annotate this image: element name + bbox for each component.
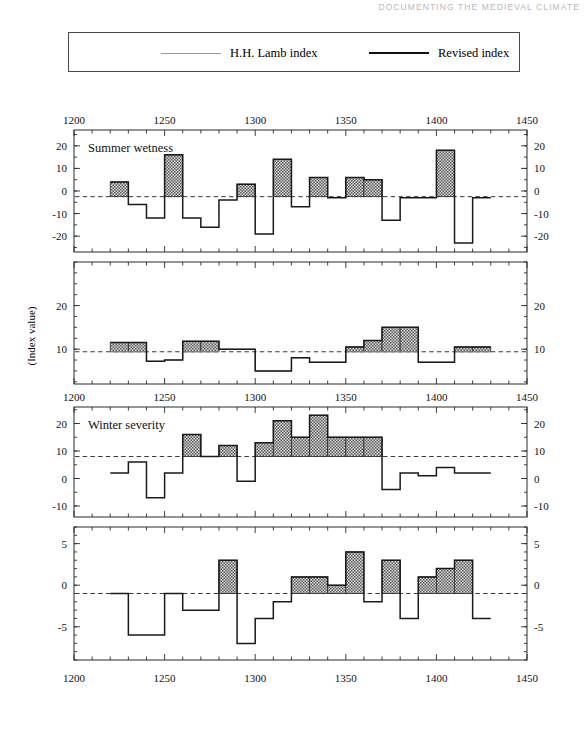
x-tick-label: 1400	[425, 391, 448, 403]
x-tick-label: 1450	[516, 672, 539, 684]
x-tick-label: 1250	[154, 672, 177, 684]
bar	[328, 585, 346, 593]
bar	[455, 560, 473, 593]
bar	[436, 150, 454, 196]
bar	[382, 560, 400, 593]
bar	[128, 343, 146, 352]
bar	[382, 327, 400, 351]
series-revised	[110, 552, 491, 643]
svg-text:0: 0	[534, 185, 540, 197]
x-tick-label: 1250	[154, 114, 177, 126]
x-tick-label: 1350	[335, 391, 358, 403]
x-tick-label: 1350	[335, 672, 358, 684]
bar	[110, 343, 128, 352]
svg-text:20: 20	[534, 140, 546, 152]
bar	[400, 327, 418, 351]
x-tick-label: 1300	[244, 672, 267, 684]
bar	[310, 177, 328, 196]
svg-text:5: 5	[534, 538, 540, 550]
x-tick-label: 1350	[335, 114, 358, 126]
svg-text:0: 0	[534, 473, 540, 485]
bar	[364, 340, 382, 351]
svg-text:10: 10	[56, 445, 68, 457]
svg-text:10: 10	[534, 162, 546, 174]
panel-3: 2020101000-10-10Winter severity	[52, 407, 549, 517]
svg-text:5: 5	[62, 538, 68, 550]
svg-text:20: 20	[56, 418, 68, 430]
x-tick-label: 1200	[63, 114, 86, 126]
x-tick-label: 1400	[425, 114, 448, 126]
svg-text:-20: -20	[534, 230, 549, 242]
bar	[291, 577, 309, 594]
svg-text:20: 20	[56, 140, 68, 152]
chart-canvas: 2020101000-10-10-20-20Summer wetness2020…	[0, 0, 587, 737]
svg-text:-10: -10	[534, 208, 549, 220]
svg-text:-5: -5	[534, 621, 544, 633]
bar	[328, 437, 346, 456]
figure-root: DOCUMENTING THE MEDIEVAL CLIMATE H.H. La…	[0, 0, 587, 737]
bar	[310, 577, 328, 594]
svg-text:-20: -20	[52, 230, 67, 242]
x-tick-label: 1450	[516, 114, 539, 126]
panel-title: Summer wetness	[88, 141, 173, 155]
panel-4: 5500-5-5	[58, 527, 544, 660]
series-revised	[110, 327, 491, 371]
x-tick-label: 1300	[244, 391, 267, 403]
svg-text:10: 10	[56, 162, 68, 174]
bar	[219, 560, 237, 593]
svg-text:20: 20	[534, 418, 546, 430]
bar	[364, 437, 382, 456]
svg-text:20: 20	[534, 300, 546, 312]
x-tick-label: 1400	[425, 672, 448, 684]
svg-text:-10: -10	[52, 500, 67, 512]
svg-text:10: 10	[534, 343, 546, 355]
svg-text:-10: -10	[534, 500, 549, 512]
bar	[237, 184, 255, 196]
bar	[183, 435, 201, 457]
bar	[110, 182, 128, 197]
svg-text:0: 0	[62, 473, 68, 485]
x-tick-label: 1450	[516, 391, 539, 403]
bar	[201, 341, 219, 351]
bar	[346, 437, 364, 456]
panel-1: 2020101000-10-10-20-20Summer wetness	[52, 130, 549, 252]
svg-text:-10: -10	[52, 208, 67, 220]
bar	[273, 421, 291, 457]
bar	[291, 437, 309, 456]
bar	[346, 177, 364, 196]
panel-2: 20201010	[56, 262, 546, 384]
x-tick-label: 1250	[154, 391, 177, 403]
panel-title: Winter severity	[88, 418, 166, 432]
bar	[418, 577, 436, 594]
bar	[219, 446, 237, 457]
x-tick-label: 1200	[63, 672, 86, 684]
x-tick-label: 1300	[244, 114, 267, 126]
bar	[255, 443, 273, 457]
bar	[346, 552, 364, 594]
svg-text:-5: -5	[58, 621, 68, 633]
svg-text:0: 0	[62, 185, 68, 197]
bar	[364, 180, 382, 197]
svg-text:0: 0	[62, 579, 68, 591]
svg-text:20: 20	[56, 300, 68, 312]
bar	[183, 341, 201, 351]
x-tick-label: 1200	[63, 391, 86, 403]
svg-text:10: 10	[56, 343, 68, 355]
svg-text:10: 10	[534, 445, 546, 457]
bar	[436, 569, 454, 594]
bar	[310, 415, 328, 456]
svg-text:0: 0	[534, 579, 540, 591]
bar	[273, 159, 291, 196]
bar	[165, 155, 183, 197]
